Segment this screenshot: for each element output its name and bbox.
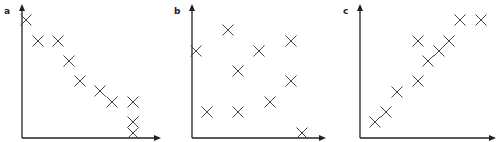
data-point-x-marker-icon	[413, 76, 424, 87]
data-point-x-marker-icon	[53, 36, 64, 47]
data-point-x-marker-icon	[75, 76, 86, 87]
panel-label-c: c	[343, 6, 348, 16]
data-point-x-marker-icon	[202, 107, 213, 118]
x-axis-arrow-icon	[319, 135, 326, 141]
data-point-x-marker-icon	[444, 36, 455, 47]
data-point-x-marker-icon	[128, 117, 139, 128]
data-point-x-marker-icon	[233, 107, 244, 118]
data-point-x-marker-icon	[434, 46, 445, 57]
data-point-x-marker-icon	[286, 36, 297, 47]
data-point-x-marker-icon	[107, 97, 118, 108]
data-point-x-marker-icon	[233, 66, 244, 77]
data-point-x-marker-icon	[413, 36, 424, 47]
data-point-x-marker-icon	[370, 117, 381, 128]
data-point-x-marker-icon	[64, 56, 75, 67]
data-point-x-marker-icon	[381, 107, 392, 118]
data-point-x-marker-icon	[392, 87, 403, 98]
data-point-x-marker-icon	[223, 25, 234, 36]
data-point-x-marker-icon	[254, 46, 265, 57]
data-point-x-marker-icon	[455, 15, 466, 26]
data-point-x-marker-icon	[476, 15, 487, 26]
scatter-panels	[0, 0, 499, 142]
data-point-x-marker-icon	[286, 76, 297, 87]
x-axis-arrow-icon	[154, 135, 161, 141]
data-point-x-marker-icon	[128, 97, 139, 108]
x-axis-arrow-icon	[489, 135, 496, 141]
data-point-x-marker-icon	[423, 56, 434, 67]
y-axis-arrow-icon	[19, 4, 25, 11]
panel-label-a: a	[4, 6, 10, 16]
y-axis-arrow-icon	[357, 4, 363, 11]
data-point-x-marker-icon	[128, 128, 139, 139]
data-point-x-marker-icon	[297, 128, 308, 139]
y-axis-arrow-icon	[189, 4, 195, 11]
data-point-x-marker-icon	[265, 97, 276, 108]
panel-label-b: b	[174, 6, 180, 16]
data-point-x-marker-icon	[33, 36, 44, 47]
data-point-x-marker-icon	[95, 86, 106, 97]
